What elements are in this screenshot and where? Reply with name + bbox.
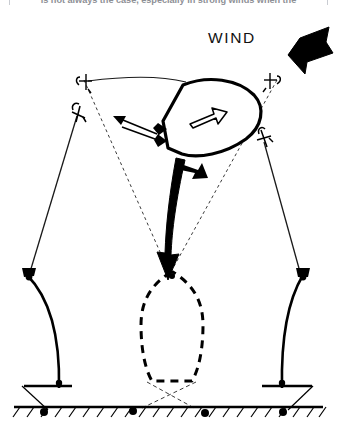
anchor-fluke-left: [22, 268, 36, 280]
mooring-diagram-svg: [0, 0, 337, 432]
rode-slack-lower: [140, 382, 196, 409]
buoy-marker-top-left: [76, 74, 92, 93]
rode-top-span: [88, 77, 186, 82]
anchor-fluke-right: [296, 268, 310, 280]
seabed: [13, 407, 326, 417]
anchor-point-3: [201, 409, 209, 417]
chain-touchdown-left: [24, 380, 72, 386]
anchor-marker-mid-left: [72, 103, 86, 122]
anchor-point-4: [279, 408, 287, 416]
rode-tension-arrow: [113, 116, 157, 139]
chain-catenary-left: [27, 275, 59, 388]
anchor-point-2: [129, 407, 137, 415]
buoy-marker-top-right: [263, 73, 280, 92]
chain-touchdown-right: [262, 380, 312, 386]
wind-arrow-icon: [288, 27, 333, 74]
rode-left-taut: [30, 116, 77, 272]
swing-direction-arrow: [157, 158, 185, 280]
anchor-point-1: [40, 408, 48, 416]
diagram-page: is not always the case, especially in st…: [0, 0, 337, 432]
rode-right-taut: [264, 142, 300, 272]
chain-catenary-right: [282, 275, 303, 388]
boat-hull-previous: [141, 272, 203, 381]
